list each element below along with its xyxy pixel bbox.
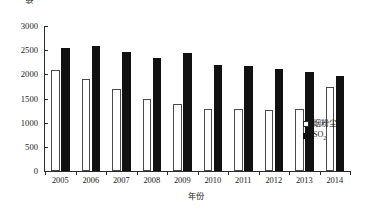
bar-group bbox=[289, 26, 320, 171]
bar-dust-2005 bbox=[51, 70, 60, 171]
x-axis-tick-mark bbox=[76, 171, 77, 175]
y-axis-tick-label: 2500 bbox=[8, 46, 38, 55]
x-axis-tick-label: 2012 bbox=[259, 176, 290, 186]
legend-label-subscript: 2 bbox=[323, 134, 326, 140]
bars-layer bbox=[45, 26, 350, 171]
y-axis-tick-label: 2000 bbox=[8, 70, 38, 79]
bar-dust-2006 bbox=[82, 79, 91, 171]
y-axis-tick-label: 0 bbox=[8, 167, 38, 176]
y-axis-tick-label: 1500 bbox=[8, 94, 38, 103]
x-axis-title: 年份 bbox=[0, 189, 391, 201]
x-axis-tick-label: 2014 bbox=[320, 176, 351, 186]
x-axis-tick-mark bbox=[228, 171, 229, 175]
plot-area: 烟粉尘与SO2排放量/万吨 050010001500200025003000 2… bbox=[0, 0, 391, 212]
x-axis-tick-mark bbox=[167, 171, 168, 175]
x-axis-tick-mark bbox=[198, 171, 199, 175]
bar-dust-2010 bbox=[204, 109, 213, 171]
x-axis-tick-mark bbox=[259, 171, 260, 175]
x-axis-tick-mark bbox=[289, 171, 290, 175]
bar-so2-2010 bbox=[214, 65, 223, 171]
bar-so2-2006 bbox=[92, 46, 101, 171]
y-axis-tick-label: 500 bbox=[8, 143, 38, 152]
x-axis-tick-label: 2006 bbox=[76, 176, 107, 186]
bar-dust-2009 bbox=[173, 104, 182, 171]
bar-group bbox=[45, 26, 76, 171]
bar-group bbox=[198, 26, 229, 171]
chart-legend: 烟粉尘SO2 bbox=[303, 118, 337, 142]
x-axis-tick-label: 2008 bbox=[137, 176, 168, 186]
bar-group bbox=[228, 26, 259, 171]
bar-chart: 烟粉尘与SO2排放量/万吨 050010001500200025003000 2… bbox=[0, 0, 391, 212]
bar-so2-2007 bbox=[122, 52, 131, 171]
bar-group bbox=[320, 26, 351, 171]
filled-square-icon bbox=[303, 133, 309, 139]
x-axis-tick-mark bbox=[320, 171, 321, 175]
bar-group bbox=[106, 26, 137, 171]
y-axis-tick-labels: 050010001500200025003000 bbox=[8, 0, 38, 212]
x-axis-tick-mark bbox=[106, 171, 107, 175]
y-axis-tick-label: 3000 bbox=[8, 22, 38, 31]
bar-so2-2012 bbox=[275, 69, 284, 171]
bar-dust-2011 bbox=[234, 109, 243, 171]
x-axis-tick-label: 2009 bbox=[167, 176, 198, 186]
x-axis-tick-mark bbox=[350, 171, 351, 175]
bar-group bbox=[137, 26, 168, 171]
bar-dust-2007 bbox=[112, 89, 121, 171]
bar-so2-2005 bbox=[61, 48, 70, 171]
hollow-square-icon bbox=[303, 121, 309, 127]
legend-item-label: SO2 bbox=[313, 129, 326, 144]
x-axis-tick-label: 2010 bbox=[198, 176, 229, 186]
y-axis-tick-label: 1000 bbox=[8, 118, 38, 127]
legend-item: SO2 bbox=[303, 130, 337, 142]
x-axis-tick-label: 2011 bbox=[228, 176, 259, 186]
bar-group bbox=[167, 26, 198, 171]
x-axis-tick-mark bbox=[137, 171, 138, 175]
bar-so2-2008 bbox=[153, 58, 162, 171]
bar-so2-2011 bbox=[244, 66, 253, 171]
x-axis-tick-label: 2013 bbox=[289, 176, 320, 186]
bar-group bbox=[259, 26, 290, 171]
x-axis-tick-label: 2007 bbox=[106, 176, 137, 186]
bar-dust-2008 bbox=[143, 99, 152, 172]
bar-group bbox=[76, 26, 107, 171]
x-axis-tick-label: 2005 bbox=[45, 176, 76, 186]
bar-so2-2009 bbox=[183, 53, 192, 171]
bar-dust-2012 bbox=[265, 110, 274, 171]
x-axis-tick-mark bbox=[45, 171, 46, 175]
